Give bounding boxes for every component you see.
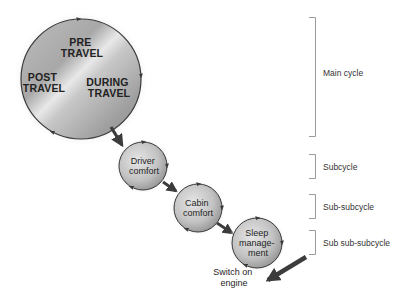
subsubcycle-circle-cabin-comfort: Cabin comfort bbox=[170, 180, 226, 236]
level-label-sub-sub-subcycle: Sub sub-subcycle bbox=[323, 238, 390, 248]
bracket-main-cycle bbox=[309, 18, 316, 137]
main-cycle-circle: PRE TRAVEL POST TRAVEL DURING TRAVEL bbox=[13, 11, 149, 147]
level-label-sub-subcycle: Sub-subcycle bbox=[323, 202, 374, 212]
driver-comfort-line1: Driver bbox=[131, 156, 155, 166]
travel-cycle-diagram: PRE TRAVEL POST TRAVEL DURING TRAVEL Dri… bbox=[0, 0, 409, 302]
cabin-comfort-line2: comfort bbox=[183, 208, 214, 218]
switch-on-engine-line1: Switch on bbox=[213, 267, 252, 277]
bracket-sub-sub-subcycle bbox=[309, 231, 316, 255]
sleep-management-line3: ment bbox=[248, 248, 269, 258]
svg-text:Driver comfort: Driver comfort bbox=[129, 156, 160, 176]
driver-comfort-line2: comfort bbox=[129, 166, 160, 176]
cabin-comfort-line1: Cabin bbox=[185, 198, 209, 208]
svg-text:Cabin comfort: Cabin comfort bbox=[183, 198, 214, 218]
phase-post-line2: TRAVEL bbox=[23, 82, 66, 94]
phase-pre-line2: TRAVEL bbox=[61, 47, 104, 59]
svg-text:POST TRAVEL: POST TRAVEL bbox=[23, 71, 66, 94]
arrow-subsubcycle-to-subsubsubcycle bbox=[217, 223, 232, 233]
subcycle-circle-driver-comfort: Driver comfort bbox=[115, 138, 171, 194]
level-label-main-cycle: Main cycle bbox=[323, 68, 363, 78]
switch-on-engine-line2: engine bbox=[220, 278, 247, 288]
switch-on-engine-label: Switch on engine bbox=[213, 267, 255, 288]
subsubsubcycle-circle-sleep-management: Sleep manage- ment bbox=[228, 214, 286, 272]
bracket-subcycle bbox=[309, 155, 316, 179]
sleep-management-line1: Sleep bbox=[245, 228, 268, 238]
arrow-subcycle-to-subsubcycle bbox=[163, 182, 176, 191]
level-label-subcycle: Subcycle bbox=[323, 162, 358, 172]
bracket-sub-subcycle bbox=[309, 195, 316, 219]
svg-text:DURING TRAVEL: DURING TRAVEL bbox=[86, 76, 132, 99]
phase-during-line2: TRAVEL bbox=[88, 87, 131, 99]
sleep-management-line2: manage- bbox=[239, 238, 275, 248]
